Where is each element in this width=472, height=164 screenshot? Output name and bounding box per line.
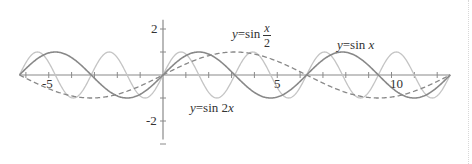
fraction-denominator: 2 <box>263 36 270 49</box>
annotation-eq: =sin <box>238 26 261 41</box>
x-tick-label-10: 10 <box>390 77 403 90</box>
x-tick-label-minus5: -5 <box>42 77 53 90</box>
panel-border <box>468 0 469 164</box>
annotation-x-var: x <box>369 37 375 52</box>
annotation-sin-half-x: y=sinx2 <box>232 22 271 49</box>
annotation-eq: =sin <box>343 37 369 52</box>
annotation-sin-2x: y=sin 2x <box>190 101 234 114</box>
annotation-sin-x: y=sin x <box>337 38 374 51</box>
annotation-eq: =sin 2 <box>196 100 228 115</box>
fraction: x2 <box>263 22 270 49</box>
y-tick-label-minus2: -2 <box>146 114 157 127</box>
y-tick-label-2: 2 <box>151 22 158 35</box>
x-tick-label-5: 5 <box>274 77 281 90</box>
annotation-x-var: x <box>228 100 234 115</box>
fraction-numerator: x <box>263 22 270 36</box>
